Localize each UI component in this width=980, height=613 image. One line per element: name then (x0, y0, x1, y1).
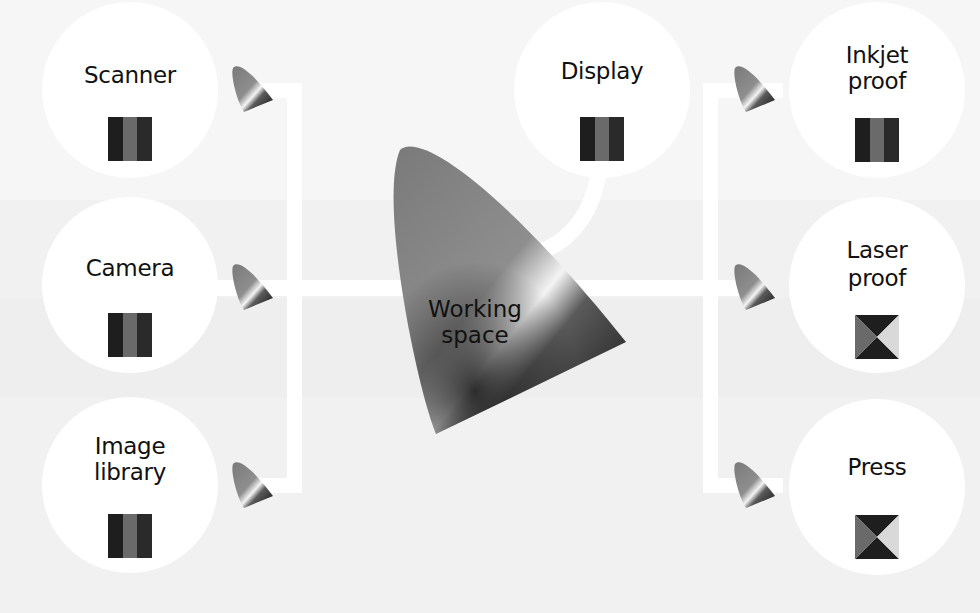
profile-gamut-icon (230, 262, 276, 312)
node-laser-proof[interactable]: Laser proof (789, 197, 965, 373)
stripes-swatch-icon (108, 514, 152, 558)
node-inkjet-proof[interactable]: Inkjet proof (789, 2, 965, 178)
node-camera[interactable]: Camera (42, 197, 218, 373)
node-label: Scanner (42, 62, 218, 88)
working-space-label: Working space (410, 296, 540, 348)
stripes-swatch-icon (855, 118, 899, 162)
working-space-gamut[interactable] (378, 142, 628, 437)
node-label: Image (42, 433, 218, 459)
output-bus-vertical (703, 83, 718, 493)
node-scanner[interactable]: Scanner (42, 2, 218, 178)
node-image-library[interactable]: Image library (42, 397, 218, 573)
profile-gamut-icon (230, 64, 276, 114)
profile-gamut-icon (732, 262, 778, 312)
working-space-label-line2: space (410, 322, 540, 348)
node-label: proof (789, 68, 965, 94)
node-label: Press (789, 454, 965, 480)
node-label: library (42, 459, 218, 485)
working-space-label-line1: Working (410, 296, 540, 322)
node-label: Camera (42, 255, 218, 281)
profile-gamut-icon (230, 460, 276, 510)
hourglass-swatch-icon (855, 515, 899, 559)
profile-gamut-icon (732, 64, 778, 114)
node-label: Inkjet (789, 42, 965, 68)
stripes-swatch-icon (108, 313, 152, 357)
node-label: Laser (789, 237, 965, 263)
node-label: Display (514, 58, 690, 84)
node-press[interactable]: Press (789, 399, 965, 575)
stripes-swatch-icon (108, 117, 152, 161)
profile-gamut-icon (732, 460, 778, 510)
hourglass-swatch-icon (855, 315, 899, 359)
node-label: proof (789, 265, 965, 291)
